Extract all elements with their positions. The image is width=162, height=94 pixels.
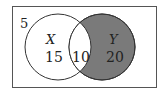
universe-count: 5 (20, 16, 28, 31)
intersection-count: 10 (72, 49, 90, 65)
set-x-only-count: 15 (45, 49, 63, 65)
set-y-only-count: 20 (106, 49, 124, 65)
venn-diagram: 5 X 15 10 Y 20 (0, 0, 162, 94)
set-x-label: X (45, 32, 56, 47)
set-y-label: Y (109, 32, 119, 47)
